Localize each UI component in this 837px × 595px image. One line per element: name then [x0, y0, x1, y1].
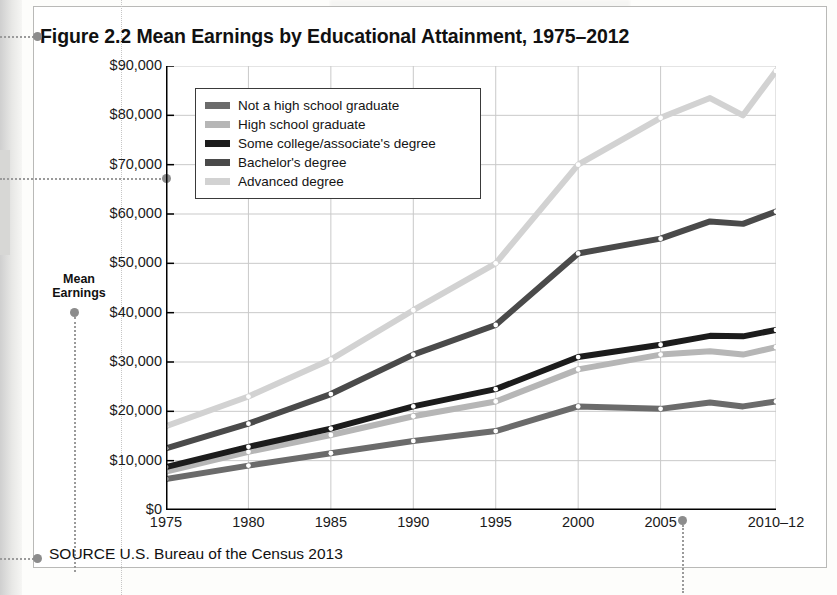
x-tick-label: 1975: [150, 514, 182, 530]
series-point-0-1: [246, 463, 251, 468]
series-point-3-5: [576, 251, 581, 256]
legend-label: Some college/associate's degree: [238, 136, 436, 151]
y-axis-tick-labels: $0$10,000$20,000$30,000$40,000$50,000$60…: [68, 66, 162, 510]
legend-label: Bachelor's degree: [238, 155, 346, 170]
legend-item-4: Advanced degree: [205, 172, 470, 191]
series-point-0-2: [328, 451, 333, 456]
series-point-4-5: [576, 162, 581, 167]
series-point-4-6: [658, 115, 663, 120]
series-point-1-3: [411, 414, 416, 419]
legend-swatch-icon: [205, 140, 230, 147]
legend-item-2: Some college/associate's degree: [205, 134, 470, 153]
page-edge-tab: [0, 150, 10, 255]
series-point-2-6: [658, 342, 663, 347]
series-point-3-4: [493, 323, 498, 328]
series-point-0-6: [658, 406, 663, 411]
legend-swatch-icon: [205, 178, 230, 185]
series-point-0-4: [493, 429, 498, 434]
legend-swatch-icon: [205, 102, 230, 109]
chart-legend: Not a high school graduateHigh school gr…: [195, 88, 481, 199]
series-point-4-2: [328, 357, 333, 362]
series-point-0-5: [576, 404, 581, 409]
series-point-1-2: [328, 433, 333, 438]
legend-swatch-icon: [205, 159, 230, 166]
legend-swatch-icon: [205, 121, 230, 128]
legend-label: High school graduate: [238, 117, 366, 132]
source-callout-leader: [0, 558, 34, 560]
x-tick-label: 1995: [480, 514, 512, 530]
figure-title: Figure 2.2 Mean Earnings by Educational …: [40, 25, 780, 48]
x-tick-label: 1990: [397, 514, 429, 530]
y-tick-label: $90,000: [76, 57, 162, 73]
y-tick-label: $20,000: [76, 402, 162, 418]
series-line-1: [166, 347, 776, 471]
figure-source: SOURCE U.S. Bureau of the Census 2013: [49, 545, 343, 563]
legend-label: Advanced degree: [238, 174, 344, 189]
series-point-1-6: [658, 352, 663, 357]
series-point-3-6: [658, 236, 663, 241]
series-line-0: [166, 401, 776, 478]
series-point-3-1: [246, 421, 251, 426]
legend-item-1: High school graduate: [205, 115, 470, 134]
series-point-2-5: [576, 355, 581, 360]
legend-label: Not a high school graduate: [238, 98, 399, 113]
y-tick-label: $70,000: [76, 156, 162, 172]
series-point-1-1: [246, 449, 251, 454]
legend-item-0: Not a high school graduate: [205, 96, 470, 115]
series-point-4-4: [493, 261, 498, 266]
series-point-4-3: [411, 308, 416, 313]
series-line-3: [166, 212, 776, 449]
y-tick-label: $30,000: [76, 353, 162, 369]
x-tick-label: 2000: [562, 514, 594, 530]
x-tick-label: 1985: [315, 514, 347, 530]
x-tick-label: 1980: [232, 514, 264, 530]
series-point-2-2: [328, 426, 333, 431]
series-point-1-4: [493, 399, 498, 404]
y-tick-label: $10,000: [76, 452, 162, 468]
series-point-0-3: [411, 439, 416, 444]
y-tick-label: $50,000: [76, 254, 162, 270]
series-point-3-3: [411, 352, 416, 357]
y-tick-label: $80,000: [76, 106, 162, 122]
series-point-2-4: [493, 387, 498, 392]
series-point-4-1: [246, 394, 251, 399]
title-callout-dot: [33, 32, 42, 41]
source-callout-dot: [33, 554, 42, 563]
series-point-2-1: [246, 444, 251, 449]
series-point-1-5: [576, 367, 581, 372]
series-point-3-2: [328, 392, 333, 397]
y-tick-label: $40,000: [76, 304, 162, 320]
x-tick-label: 2010–12: [748, 514, 804, 530]
x-axis-tick-labels: 19751980198519901995200020052010–12: [166, 514, 776, 536]
legend-item-3: Bachelor's degree: [205, 153, 470, 172]
title-callout-leader: [0, 36, 34, 38]
series-point-2-3: [411, 404, 416, 409]
x-tick-label: 2005: [644, 514, 676, 530]
y-tick-label: $60,000: [76, 205, 162, 221]
